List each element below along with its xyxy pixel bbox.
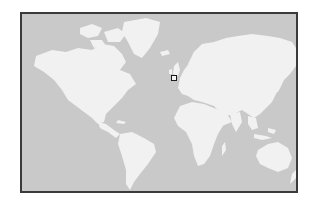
landmass-iceland — [160, 50, 170, 56]
landmass-central-america — [98, 122, 120, 138]
landmass-southeast-asia — [248, 116, 276, 140]
landmass-south-america — [118, 132, 156, 190]
world-map-graphic — [22, 14, 296, 191]
world-map[interactable] — [20, 12, 298, 193]
landmass-arctic-islands — [80, 24, 126, 48]
location-marker[interactable] — [171, 75, 177, 81]
landmass-british-isles — [169, 62, 180, 76]
landmass-australia — [256, 142, 292, 172]
landmass-madagascar — [222, 142, 226, 156]
landmass-india — [230, 112, 242, 132]
landmass-new-zealand — [290, 170, 296, 184]
landmass-greenland — [122, 18, 160, 58]
landmass-caribbean — [116, 120, 126, 124]
landmass-north-america — [34, 44, 136, 124]
